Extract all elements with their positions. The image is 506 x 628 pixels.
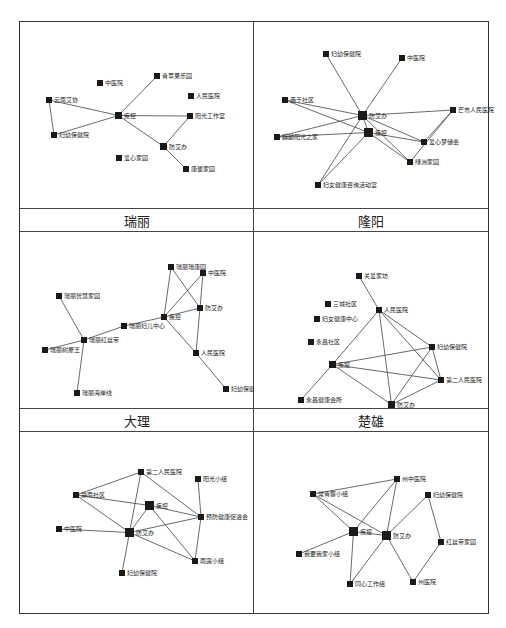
node-square-icon	[42, 347, 48, 353]
node-square-icon	[356, 273, 362, 279]
node-label: 中医院	[208, 269, 226, 277]
network-node: 疾控	[349, 527, 372, 536]
node-square-icon	[161, 314, 167, 320]
node-square-icon	[168, 264, 174, 270]
network-edge	[410, 110, 453, 162]
node-label: 瑞丽智慧家园	[64, 292, 100, 300]
node-square-icon	[310, 491, 316, 497]
network-node: 关爱家坊	[356, 272, 388, 280]
network-edge	[164, 317, 196, 353]
network-graph: 第二人民医院阳光小组静南社区疾控预防健康促进会中医院防艾办雨露小组妇幼保健院	[20, 432, 253, 613]
network-node: 中医院	[200, 269, 226, 277]
network-panel-6: 州中医院常青藤小组妇幼保健院疾控防艾办红丝带家园我要我家小组同心工作组州医院	[254, 432, 488, 613]
network-node: 人民医院	[376, 306, 408, 314]
network-node: 第二人民医院	[438, 376, 482, 384]
network-node: 防艾办	[125, 528, 154, 537]
network-node: 绿洲家园	[407, 158, 439, 166]
node-label: 人民医院	[196, 92, 220, 100]
network-edge	[122, 533, 130, 574]
node-label: 妇幼保健院	[437, 343, 467, 351]
network-node: 州医院	[410, 578, 436, 586]
network-node: 第二人民医院	[138, 468, 182, 476]
node-label: 永昌健康会所	[306, 396, 342, 404]
network-graph: 妇幼保健院中医院西干社区防艾办芒市人民医院麒麟阳光之家疾控爱心梦储会绿洲家园妇女…	[254, 22, 488, 208]
node-square-icon	[195, 476, 201, 482]
node-label: 妇女健康咨询活动室	[323, 181, 377, 189]
network-node: 芒市人民医院	[450, 106, 494, 114]
network-edge	[119, 116, 164, 147]
node-label: 妇幼保健院	[331, 50, 361, 58]
node-square-icon	[425, 492, 431, 498]
node-square-icon	[308, 339, 314, 345]
network-node: 麒麟阳光之家	[274, 133, 318, 141]
network-node: 妇幼保健院	[51, 131, 89, 139]
node-label: 州中医院	[402, 475, 426, 483]
node-square-icon	[51, 132, 57, 138]
network-edge	[379, 310, 432, 347]
node-label: 防艾办	[393, 532, 411, 540]
node-label: 防艾办	[169, 143, 187, 151]
node-square-icon	[323, 51, 329, 57]
node-square-icon	[274, 134, 280, 140]
network-panel-3: 瑞丽瑞康园中医院瑞丽智慧家园防艾办疾控瑞丽妇儿中心瑞丽红丝带瑞丽树屋王人民医院瑞…	[20, 232, 253, 408]
node-square-icon	[56, 526, 62, 532]
network-node: 阳光小组	[195, 475, 227, 483]
panel-label-3: 大理	[20, 408, 253, 432]
panel-label-1: 瑞丽	[20, 208, 253, 232]
network-edge	[369, 133, 411, 163]
network-node: 阳光工作室	[187, 112, 225, 120]
network-edge	[59, 296, 84, 340]
node-label: 芒市人民医院	[458, 106, 494, 114]
node-label: 静南社区	[81, 491, 105, 499]
network-node: 红丝带家园	[438, 538, 476, 546]
node-label: 瑞丽树屋王	[50, 346, 80, 354]
node-square-icon	[145, 501, 154, 510]
node-label: 三城社区	[333, 300, 357, 308]
network-node: 妇幼保健院	[119, 569, 157, 577]
network-node: 瑞丽智慧家园	[56, 292, 100, 300]
node-label: 疾控	[375, 129, 387, 137]
network-edge	[196, 308, 200, 353]
network-node: 中医院	[399, 54, 425, 62]
node-label: 绿洲家园	[415, 158, 439, 166]
node-square-icon	[116, 155, 122, 161]
network-node: 妇女健康咨询活动室	[315, 181, 377, 189]
network-edge	[379, 310, 392, 405]
network-node: 疾控	[364, 128, 387, 137]
network-edge	[392, 347, 433, 405]
node-label: 妇幼保健院	[127, 569, 157, 577]
node-label: 雨露小组	[200, 557, 224, 565]
node-square-icon	[410, 579, 416, 585]
network-node: 瑞丽妇儿中心	[121, 322, 165, 330]
node-square-icon	[119, 570, 125, 576]
node-square-icon	[429, 344, 435, 350]
network-node: 瑞丽海岸线	[74, 389, 112, 397]
node-label: 同心工作组	[355, 580, 385, 588]
network-graph: 州中医院常青藤小组妇幼保健院疾控防艾办红丝带家园我要我家小组同心工作组州医院	[254, 432, 488, 613]
network-edge	[200, 273, 203, 308]
node-square-icon	[382, 531, 391, 540]
network-node: 妇幼保健院	[429, 343, 467, 351]
node-square-icon	[421, 139, 427, 145]
node-square-icon	[193, 350, 199, 356]
node-square-icon	[188, 93, 194, 99]
node-square-icon	[223, 386, 229, 392]
network-edge	[387, 536, 414, 583]
node-label: 妇幼保健院	[433, 491, 463, 499]
network-node: 妇幼保健院	[425, 491, 463, 499]
node-square-icon	[298, 397, 304, 403]
network-edge	[313, 494, 354, 532]
network-graph: 瑞丽瑞康园中医院瑞丽智慧家园防艾办疾控瑞丽妇儿中心瑞丽红丝带瑞丽树屋王人民医院瑞…	[20, 232, 253, 408]
node-square-icon	[200, 270, 206, 276]
panel-label-4: 楚雄	[254, 408, 488, 432]
network-node: 防艾办	[382, 531, 411, 540]
network-node: 康馨家园	[183, 165, 215, 173]
node-label: 疾控	[338, 361, 350, 369]
network-edge	[350, 532, 354, 585]
node-square-icon	[314, 316, 320, 322]
network-edge	[318, 133, 369, 186]
network-edge	[350, 536, 387, 585]
node-label: 瑞丽妇儿中心	[129, 322, 165, 330]
network-edge	[363, 58, 403, 116]
panel-label-2: 隆阳	[254, 208, 488, 232]
